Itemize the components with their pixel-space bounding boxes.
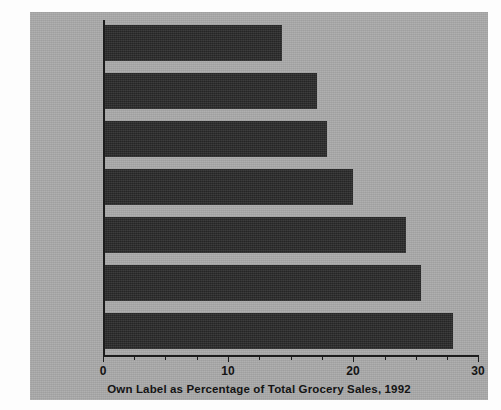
x-tick-label-20: 20 [346,364,359,378]
bar-great-britain [103,313,453,349]
plot-area: United States Holland Belgium France Ger… [30,12,488,400]
bar-holland [103,73,317,109]
x-tick-30 [478,356,479,362]
x-tick-12p5 [259,356,260,360]
x-tick-17p5 [322,356,323,360]
x-tick-15 [291,356,292,360]
bar-belgium [103,121,327,157]
x-axis-caption: Own Label as Percentage of Total Grocery… [30,383,488,395]
bar-chart-figure: United States Holland Belgium France Ger… [0,0,501,410]
bar-france [103,169,353,205]
bar-united-states [103,25,282,61]
bars-layer [30,12,488,400]
x-tick-25 [416,356,417,360]
x-tick-0 [103,356,104,362]
x-tick-22p5 [385,356,386,360]
bar-switzerland [103,265,421,301]
y-axis-line [103,20,105,356]
x-tick-10 [228,356,229,362]
x-tick-label-0: 0 [100,364,107,378]
x-tick-7p5 [197,356,198,360]
x-tick-2p5 [134,356,135,360]
x-tick-label-10: 10 [221,364,234,378]
x-tick-label-30: 30 [471,364,484,378]
x-tick-20 [353,356,354,362]
x-tick-27p5 [447,356,448,360]
x-tick-5 [165,356,166,360]
bar-germany [103,217,406,253]
